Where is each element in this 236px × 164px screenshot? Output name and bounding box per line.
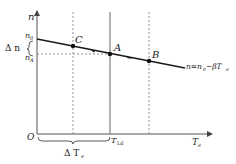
x-axis-subscript: e <box>198 142 201 148</box>
line-equation: n=n 0 −βT e <box>186 62 229 72</box>
svg-text:−βT: −βT <box>206 62 223 71</box>
na-subscript: A <box>29 57 34 63</box>
origin-label: O <box>27 132 35 142</box>
svg-text:e: e <box>226 67 229 72</box>
delta-te-label: Δ T <box>64 148 79 158</box>
tld-subscript: Ld <box>117 140 124 146</box>
n0-subscript: 0 <box>30 35 34 41</box>
delta-te-subscript: e <box>81 153 84 159</box>
speed-temperature-diagram: C A B n n 0 n A Δ n O Δ T e T Ld T e n=n… <box>0 0 236 164</box>
label-c: C <box>75 34 83 45</box>
label-b: B <box>151 49 159 60</box>
label-a: A <box>113 42 121 53</box>
y-axis-label: n <box>28 11 34 22</box>
svg-text:n=n: n=n <box>186 62 202 71</box>
point-b <box>147 59 151 63</box>
point-a <box>108 52 112 56</box>
delta-te-brace <box>38 137 110 144</box>
delta-n-label: Δ n <box>5 43 20 53</box>
